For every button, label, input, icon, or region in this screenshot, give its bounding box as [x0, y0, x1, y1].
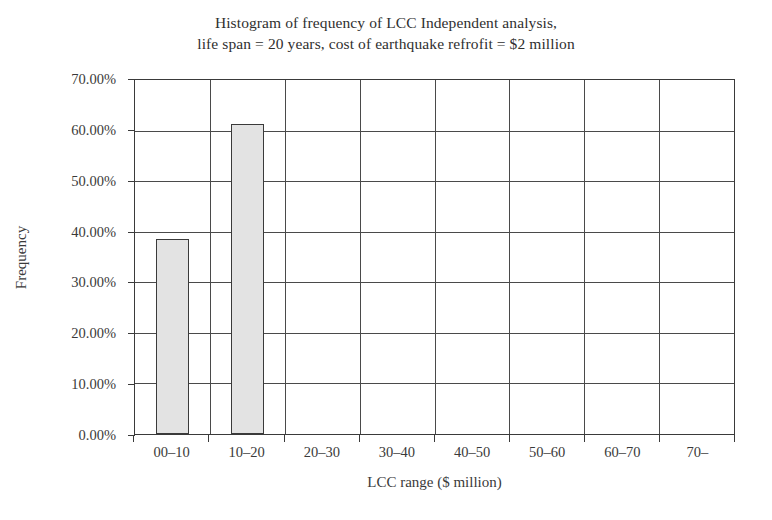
x-axis-tick-label: 00–10 — [153, 444, 189, 461]
x-axis-tick-label: 10–20 — [229, 444, 265, 461]
x-axis-tick-labels: 00–1010–2020–3030–4040–5050–6060–7070– — [134, 444, 735, 468]
x-axis-tick-label: 60–70 — [604, 444, 640, 461]
x-axis-tick-label: 50–60 — [529, 444, 565, 461]
x-axis-tick-mark — [584, 435, 585, 442]
bars-layer — [135, 80, 734, 434]
bar-cell — [210, 80, 285, 434]
x-axis-tick-mark — [509, 435, 510, 442]
x-axis-tick-label: 40–50 — [454, 444, 490, 461]
chart-title: Histogram of frequency of LCC Independen… — [0, 12, 772, 54]
bar-cell — [659, 80, 734, 434]
y-axis-tick-label: 50.00% — [71, 172, 116, 189]
bar-10-20 — [231, 124, 264, 434]
y-axis-tick-label: 30.00% — [71, 274, 116, 291]
x-axis-tick-label: 30–40 — [379, 444, 415, 461]
x-axis-tick-mark — [133, 435, 134, 442]
bar-00-10 — [156, 239, 189, 434]
y-axis-tick-label: 10.00% — [71, 376, 116, 393]
chart-title-line-2: life span = 20 years, cost of earthquake… — [0, 33, 772, 54]
bar-cell — [435, 80, 510, 434]
bar-cell — [135, 80, 210, 434]
y-axis-tick-label: 0.00% — [79, 427, 116, 444]
x-axis-tick-label: 20–30 — [304, 444, 340, 461]
histogram-figure: Histogram of frequency of LCC Independen… — [0, 0, 772, 520]
y-axis-tick-labels: 0.00%10.00%20.00%30.00%40.00%50.00%60.00… — [0, 79, 126, 435]
x-axis-tick-mark — [359, 435, 360, 442]
x-axis-tick-mark — [284, 435, 285, 442]
bar-cell — [360, 80, 435, 434]
y-axis-tick-label: 60.00% — [71, 121, 116, 138]
y-axis-tick-label: 70.00% — [71, 71, 116, 88]
x-axis-tick-mark — [208, 435, 209, 442]
x-axis-tick-mark — [734, 435, 735, 442]
bar-cell — [584, 80, 659, 434]
chart-title-line-1: Histogram of frequency of LCC Independen… — [0, 12, 772, 33]
x-axis-tick-label: 70– — [687, 444, 709, 461]
y-axis-tick-label: 20.00% — [71, 325, 116, 342]
x-axis-tick-mark — [659, 435, 660, 442]
bar-cell — [285, 80, 360, 434]
y-axis-tick-label: 40.00% — [71, 223, 116, 240]
x-axis-tick-mark — [434, 435, 435, 442]
x-axis-title: LCC range ($ million) — [134, 474, 735, 491]
plot-area — [134, 79, 735, 435]
x-axis-tick-marks — [134, 435, 735, 443]
bar-cell — [509, 80, 584, 434]
